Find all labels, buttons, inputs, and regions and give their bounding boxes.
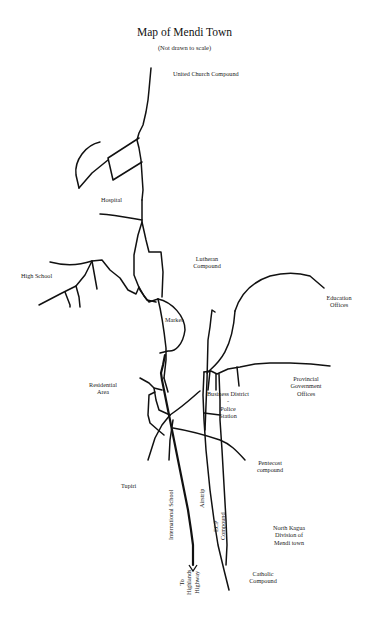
road-education-main	[235, 273, 324, 311]
road-residential-5	[148, 415, 170, 460]
label-provincial-government: Provincial Government Offices	[283, 375, 329, 397]
road-high-school-spur2	[65, 292, 70, 307]
road-high-school-spur1	[92, 261, 97, 289]
road-residential-1	[140, 378, 162, 390]
label-highlands-highway: To Highlands Highway	[178, 570, 200, 595]
label-high-school: High School	[21, 272, 52, 279]
road-provincial-spur3	[237, 367, 239, 386]
label-united-church: United Church Compound	[173, 70, 239, 77]
road-high-school-spur3	[76, 286, 80, 307]
road-provincial-spur1	[208, 371, 210, 390]
label-market: Market	[165, 316, 183, 323]
label-international-school: International School	[167, 490, 174, 540]
label-north-kagua: North Kagua Division of Mendi town	[267, 524, 311, 546]
label-residential-area: Residential Area	[82, 381, 124, 396]
road-hospital-south	[100, 214, 142, 220]
road-central-2	[142, 222, 163, 297]
label-education-offices: Education Offices	[320, 294, 358, 309]
road-high-school-2	[39, 261, 92, 305]
label-airstrip: Airstrip	[198, 489, 205, 508]
label-business-district: Business District - Police Station	[199, 390, 257, 420]
road-network	[0, 0, 369, 631]
road-hospital-west	[79, 160, 108, 188]
road-hospital-block	[108, 138, 142, 180]
road-pentecost	[173, 428, 245, 460]
label-ecp-compound: ECP Compound	[212, 512, 227, 540]
label-lutheran: Lutheran Compound	[187, 255, 227, 270]
road-north-main	[137, 68, 151, 200]
road-central-1	[134, 200, 156, 302]
road-hospital-arc	[76, 142, 100, 188]
road-residential-4	[170, 391, 200, 415]
label-hospital: Hospital	[101, 196, 122, 203]
road-provincial	[204, 363, 330, 374]
label-tupiri: Tupiri	[121, 482, 136, 489]
road-market-loop	[158, 299, 185, 353]
label-pentecost-compound: Pentecost compound	[251, 459, 289, 474]
label-catholic-compound: Catholic Compound	[244, 570, 282, 585]
